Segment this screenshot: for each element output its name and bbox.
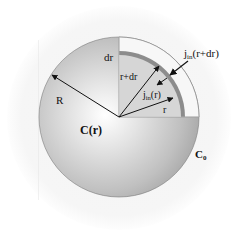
label-R: R — [56, 94, 64, 106]
label-j-in-r: jin(r) — [142, 89, 161, 101]
label-C-r: C(r) — [80, 123, 102, 137]
diagram-canvas: dr r+dr jin(r+dr) jin(r) r R C(r) C0 — [0, 0, 242, 234]
label-r-plus-dr: r+dr — [120, 71, 138, 82]
label-dr: dr — [104, 51, 114, 63]
